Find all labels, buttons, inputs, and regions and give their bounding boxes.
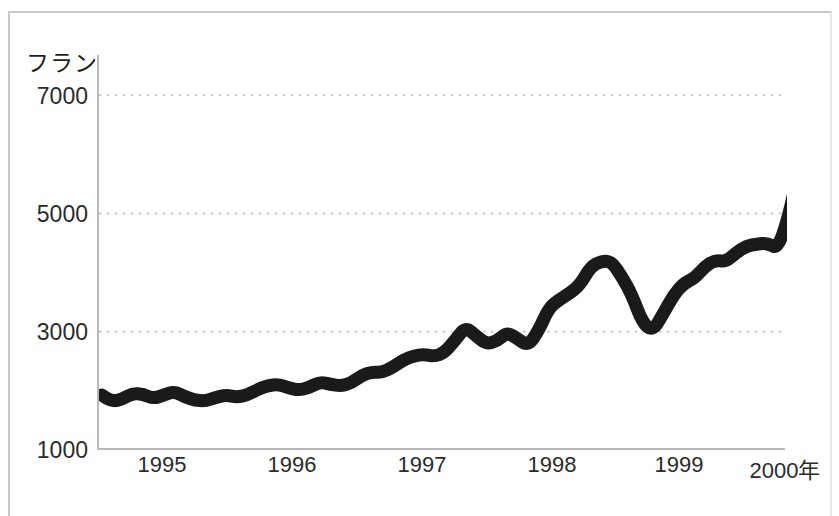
data-series-line [102,135,787,401]
x-tick-label-2000: 2000年 [750,452,821,484]
x-tick-label-1999: 1999 [655,452,704,478]
x-tick-label-1996: 1996 [268,452,317,478]
x-tick-label-1997: 1997 [398,452,447,478]
gridlines [99,95,787,332]
plot-svg [99,55,787,450]
x-tick-label-1995: 1995 [138,452,187,478]
x-tick-label-1998: 1998 [528,452,577,478]
y-tick-label-7000: 7000 [10,83,88,110]
y-tick-label-1000: 1000 [10,437,88,464]
y-tick-label-3000: 3000 [10,319,88,346]
y-axis-tick-labels: 7000 5000 3000 1000 [10,0,88,509]
plot-area [97,55,785,450]
y-tick-label-5000: 5000 [10,201,88,228]
